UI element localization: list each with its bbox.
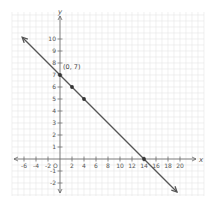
y-axis-label: y xyxy=(57,8,63,16)
x-tick-label: -6 xyxy=(21,162,27,169)
y-tick-label: 7 xyxy=(52,71,56,78)
axis-ticks: -6-4-22468101214161820-2-112345678910 xyxy=(21,35,184,186)
y-tick-label: 2 xyxy=(52,131,56,138)
coordinate-plane: -6-4-22468101214161820-2-112345678910 (0… xyxy=(0,0,209,204)
data-point xyxy=(58,73,62,77)
x-tick-label: 18 xyxy=(164,162,172,169)
x-tick-label: -4 xyxy=(33,162,39,169)
x-tick-label: 10 xyxy=(116,162,124,169)
y-tick-label: 3 xyxy=(52,119,56,126)
x-tick-label: 2 xyxy=(70,162,74,169)
data-point xyxy=(142,157,146,161)
data-point xyxy=(82,97,86,101)
y-tick-label: -2 xyxy=(50,179,56,186)
x-tick-label: 14 xyxy=(140,162,148,169)
y-tick-label: 10 xyxy=(48,35,56,42)
point-label: (0, 7) xyxy=(63,63,80,71)
y-tick-label: 9 xyxy=(52,47,56,54)
origin-label: O xyxy=(53,162,58,169)
data-point xyxy=(70,85,74,89)
x-tick-label: 4 xyxy=(82,162,86,169)
y-tick-label: 8 xyxy=(52,59,56,66)
x-tick-label: 20 xyxy=(176,162,184,169)
x-axis-label: x xyxy=(198,156,204,164)
y-tick-label: 6 xyxy=(52,83,56,90)
x-tick-label: 8 xyxy=(106,162,110,169)
y-tick-label: 4 xyxy=(52,107,56,114)
x-tick-label: 6 xyxy=(94,162,98,169)
y-tick-label: 5 xyxy=(52,95,56,102)
x-tick-label: 12 xyxy=(128,162,136,169)
y-tick-label: 1 xyxy=(52,143,56,150)
